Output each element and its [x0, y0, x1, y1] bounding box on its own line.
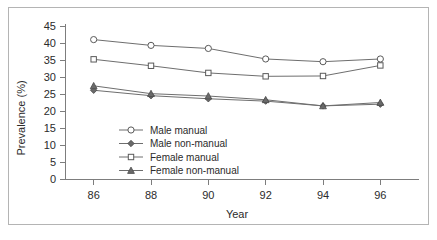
data-point-marker — [90, 82, 97, 88]
y-tick-label: 5 — [50, 156, 56, 168]
chart-frame: 051015202530354045 868890929496 Prevalen… — [8, 7, 429, 225]
y-tick-label: 25 — [44, 88, 56, 100]
series-line — [94, 40, 381, 62]
legend-label: Female manual — [150, 152, 219, 163]
y-tick-label: 0 — [50, 173, 56, 185]
data-point-marker — [128, 154, 133, 159]
series-male-manual — [91, 37, 384, 65]
data-point-marker — [263, 74, 268, 79]
legend-item[interactable]: Male non-manual — [119, 138, 227, 149]
x-tick-label: 92 — [260, 189, 272, 201]
y-tick-label: 35 — [44, 54, 56, 66]
data-point-marker — [128, 127, 134, 133]
legend-item[interactable]: Female manual — [119, 152, 219, 163]
y-axis-title: Prevalence (%) — [15, 80, 27, 155]
series-female-manual — [91, 57, 383, 79]
x-tick-labels: 868890929496 — [88, 189, 387, 201]
y-tick-label: 20 — [44, 105, 56, 117]
series-line — [94, 59, 381, 76]
y-tick-labels: 051015202530354045 — [44, 20, 56, 185]
series-line — [94, 86, 381, 106]
y-tick-label: 45 — [44, 20, 56, 32]
data-point-marker — [263, 56, 269, 62]
x-tick-label: 96 — [374, 189, 386, 201]
data-point-marker — [320, 73, 325, 78]
series-group — [90, 37, 383, 110]
figure-container: 051015202530354045 868890929496 Prevalen… — [0, 0, 437, 240]
legend-item[interactable]: Female non-manual — [119, 165, 239, 176]
x-tick-label: 90 — [202, 189, 214, 201]
data-point-marker — [378, 63, 383, 68]
x-tick-label: 94 — [317, 189, 329, 201]
data-point-marker — [128, 140, 134, 146]
data-point-marker — [148, 42, 154, 48]
legend-label: Female non-manual — [150, 165, 239, 176]
line-chart: 051015202530354045 868890929496 Prevalen… — [9, 8, 428, 224]
x-tick-label: 88 — [145, 189, 157, 201]
y-tick-label: 15 — [44, 122, 56, 134]
legend-item[interactable]: Male manual — [119, 125, 207, 136]
y-tick-label: 30 — [44, 71, 56, 83]
data-point-marker — [148, 63, 153, 68]
chart-legend: Male manualMale non-manualFemale manualF… — [119, 125, 239, 177]
data-point-marker — [91, 37, 97, 43]
axes-group — [65, 24, 419, 179]
data-point-marker — [91, 57, 96, 62]
y-tick-label: 10 — [44, 139, 56, 151]
x-tick-label: 86 — [88, 189, 100, 201]
x-axis-title: Year — [226, 208, 249, 220]
data-point-marker — [205, 45, 211, 51]
data-point-marker — [377, 56, 383, 62]
legend-label: Male non-manual — [150, 138, 227, 149]
data-point-marker — [206, 70, 211, 75]
legend-label: Male manual — [150, 125, 207, 136]
series-female-non-manual — [90, 82, 383, 108]
data-point-marker — [320, 59, 326, 65]
y-tick-label: 40 — [44, 37, 56, 49]
